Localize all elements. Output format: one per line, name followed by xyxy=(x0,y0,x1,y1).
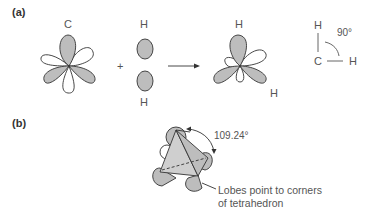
h-top-label: H xyxy=(140,19,148,30)
h-s-orbital-top xyxy=(137,39,153,59)
angle-h-right-label: H xyxy=(349,56,357,67)
angle-h-top-label: H xyxy=(314,20,322,31)
plus-sign: + xyxy=(117,61,123,72)
annotation-line-1: Lobes point to corners xyxy=(218,185,322,196)
panel-a-label: (a) xyxy=(12,7,25,18)
h-s-orbital-bottom xyxy=(137,71,153,91)
h-bottom-label: H xyxy=(140,97,148,108)
tetrahedral-angle-label: 109.24° xyxy=(214,131,249,141)
tetrahedral-sp3-orbitals xyxy=(153,127,213,191)
product-h-right-label: H xyxy=(270,88,278,99)
angle-90-label: 90° xyxy=(337,28,352,38)
reaction-arrow xyxy=(168,64,200,69)
carbon-p-orbitals xyxy=(41,35,95,93)
carbon-label: C xyxy=(64,19,72,30)
angle-c-label: C xyxy=(314,56,322,67)
annotation-leader-line xyxy=(202,183,216,189)
panel-b-label: (b) xyxy=(12,118,26,129)
product-orbitals xyxy=(214,35,266,83)
product-h-top-label: H xyxy=(235,19,243,30)
annotation-line-2: of tetrahedron xyxy=(218,198,283,209)
